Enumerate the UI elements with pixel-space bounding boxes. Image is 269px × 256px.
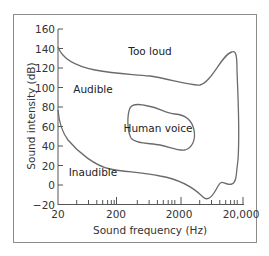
y-tick-label: 140 [35, 43, 55, 55]
region-label-too-loud: Too loud [127, 45, 171, 57]
y-tick-label: 60 [42, 121, 55, 133]
region-label-inaudible: Inaudible [69, 166, 117, 178]
x-tick-label: 20,000 [223, 208, 260, 220]
y-tick-label: 100 [35, 82, 55, 94]
x-tick-label: 20 [51, 208, 64, 220]
y-tick-label: 20 [42, 160, 55, 172]
y-axis-title: Sound intensity (dB) [25, 62, 37, 169]
x-axis-title: Sound frequency (Hz) [93, 224, 207, 236]
y-tick-label: 0 [48, 179, 55, 191]
region-label-human-voice: Human voice [124, 122, 193, 134]
y-tick-label: 80 [42, 101, 55, 113]
x-tick-label: 200 [106, 208, 126, 220]
x-ticks [77, 197, 243, 204]
y-tick-label: 40 [42, 140, 55, 152]
y-tick-label: 120 [35, 62, 55, 74]
x-tick-label: 2000 [166, 208, 193, 220]
y-tick-label: 160 [35, 23, 55, 35]
region-label-audible: Audible [73, 83, 112, 95]
chart-svg: 160 140 120 100 80 60 40 20 0 −20 [0, 0, 269, 256]
